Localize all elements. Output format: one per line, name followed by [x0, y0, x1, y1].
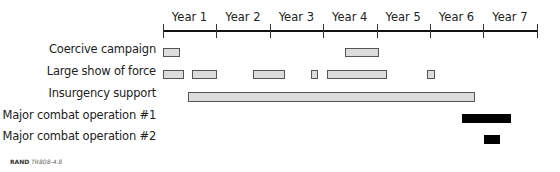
x-tick-label: Year 1: [163, 10, 216, 24]
activity-bar: [484, 135, 500, 144]
row-label: Large show of force: [47, 64, 156, 78]
activity-bar: [311, 70, 318, 79]
activity-bar: [462, 114, 511, 123]
row-label: Coercive campaign: [49, 42, 156, 56]
source-id: TR808-4.8: [31, 158, 62, 165]
activity-bar: [188, 92, 475, 102]
row-label: Major combat operation #1: [3, 108, 156, 122]
activity-bar: [327, 70, 387, 79]
activity-bar: [163, 70, 184, 79]
source-org: RAND: [10, 158, 29, 165]
x-tick-label: Year 5: [377, 10, 430, 24]
source-note: RAND TR808-4.8: [10, 158, 62, 165]
x-tick: [216, 24, 217, 38]
x-tick: [270, 24, 271, 38]
activity-bar: [253, 70, 285, 79]
x-tick-label: Year 2: [216, 10, 269, 24]
axis-line: [163, 30, 537, 32]
x-tick-label: Year 7: [483, 10, 536, 24]
activity-bar: [427, 70, 435, 79]
x-tick-label: Year 6: [430, 10, 483, 24]
x-tick: [163, 24, 164, 38]
x-tick-label: Year 3: [270, 10, 323, 24]
x-tick-label: Year 4: [323, 10, 376, 24]
activity-bar: [345, 48, 379, 57]
x-tick: [537, 24, 538, 38]
row-label: Insurgency support: [49, 86, 157, 100]
x-tick: [483, 24, 484, 38]
x-tick: [430, 24, 431, 38]
row-label: Major combat operation #2: [3, 129, 156, 143]
x-tick: [323, 24, 324, 38]
activity-bar: [163, 48, 180, 57]
activity-bar: [192, 70, 217, 79]
x-tick: [377, 24, 378, 38]
